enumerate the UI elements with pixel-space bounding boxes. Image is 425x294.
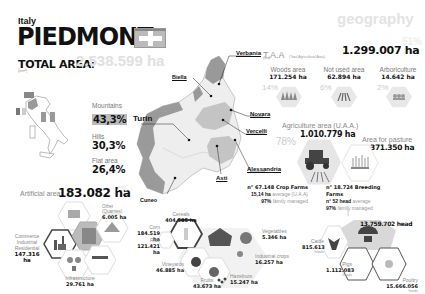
trees-icon — [276, 86, 302, 108]
city-alessandria: Alessandria — [247, 166, 281, 172]
city-cuneo: Cuneo — [140, 197, 157, 203]
taa-ghost-pct: 51% — [402, 36, 422, 47]
tractor-icon — [297, 138, 341, 186]
section-title: geography — [337, 10, 414, 27]
uaa-pct: 78% — [276, 136, 296, 147]
fields-icon — [331, 86, 357, 108]
artificial-other: Other (Quarries) 6.005 ha — [102, 204, 142, 220]
italy-locator-map — [6, 88, 74, 160]
crop-vegetables: Vegetables 5.346 ha — [262, 228, 296, 240]
crop-cereals: Cereals 404.585 ha — [161, 211, 201, 223]
terrain-mountains: Mountains 43,3% — [92, 102, 136, 127]
terrain-flat: Flat area 26,4% — [92, 157, 136, 175]
city-asti: Asti — [216, 175, 227, 181]
livestock-pigs: Pigs 1.112.083 heads — [326, 261, 352, 277]
artificial-infrastructure: Infrastructure 29.761 ha — [60, 275, 100, 287]
piedmont-map — [133, 48, 268, 198]
total-area-sub: (km²) — [18, 68, 27, 73]
land-use-woods: Woods area 171.254 ha — [262, 66, 314, 80]
orchard-icon — [386, 86, 412, 108]
crop-farms-info: n° 67.148 Crop Farms 15,14 ha average (U… — [246, 184, 308, 205]
land-use-not-used: Not used area 62.894 ha — [318, 66, 370, 80]
not-used-pct: 6% — [320, 83, 332, 92]
livestock-cattle: Cattle 815.613 heads — [302, 238, 324, 254]
crop-fruits: Fruits 43.673 ha — [192, 277, 222, 289]
uaa-value: 1.010.779 ha — [300, 130, 355, 139]
crop-industrial: Industrial crops 16.257 ha — [255, 253, 299, 265]
pasture-icon — [341, 143, 379, 183]
terrain-stats: Mountains 43,3% Hills 30,3% Flat area 26… — [92, 102, 136, 175]
crop-vineyards: Vineyards 46.885 ha — [152, 261, 184, 273]
taa-sub: (ha) — [263, 55, 270, 60]
pasture-label: Area for pasture — [362, 136, 412, 143]
artificial-label: Artificial area: — [20, 190, 62, 197]
city-biella: Biella — [172, 74, 187, 80]
crop-hazelnuts: Hazelnuts 15.247 ha — [230, 273, 262, 285]
uaa-label: Agriculture area (U.A.A.) — [282, 122, 358, 129]
city-turin: Turin — [133, 114, 152, 123]
region-flag — [134, 28, 166, 48]
crop-rice: Rice 121.421 ha — [130, 237, 160, 255]
city-verbania: Verbania — [236, 50, 261, 56]
city-novara: Novara — [250, 111, 270, 117]
city-vercelli: Vercelli — [246, 128, 267, 134]
woods-pct: 14% — [262, 83, 278, 92]
region-title: PIEDMONT — [17, 23, 153, 51]
taa-label: T.A.A (Total Agricultural Area) — [263, 44, 325, 62]
arboriculture-pct: 2% — [377, 83, 389, 92]
land-use-arboriculture: Arboriculture 14.642 ha — [372, 66, 424, 80]
artificial-ghost-pct: 7% — [116, 184, 128, 193]
artificial-commerce: Commerce Industrial Residential 147.316 … — [10, 233, 44, 263]
livestock-poultry: Poultry 15.666.056 heads — [382, 277, 418, 293]
livestock-total: 13.759.702 head — [360, 220, 412, 227]
terrain-hills: Hills 30,3% — [92, 133, 136, 151]
